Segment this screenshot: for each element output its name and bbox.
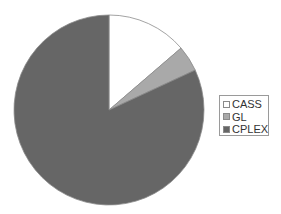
legend-item-cass: CASS [223,98,268,111]
legend-item-gl: GL [223,111,268,124]
legend-label-gl: GL [232,111,247,123]
legend-swatch-cplex [223,126,230,133]
pie-chart [0,0,215,214]
legend-item-cplex: CPLEX [223,123,268,136]
legend-label-cass: CASS [232,98,262,110]
legend: CASS GL CPLEX [219,95,269,136]
legend-swatch-cass [223,101,230,108]
legend-label-cplex: CPLEX [232,123,268,135]
legend-swatch-gl [223,113,230,120]
